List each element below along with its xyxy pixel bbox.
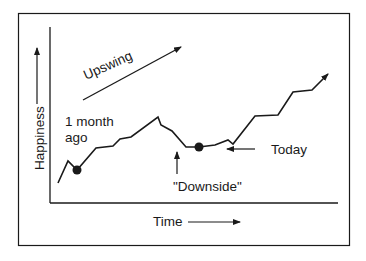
one-month-ago-label-line2: ago: [65, 130, 88, 145]
downside-label: "Downside": [173, 179, 242, 194]
y-axis-label: Happiness: [32, 106, 47, 170]
upswing-label: Upswing: [81, 48, 134, 83]
happiness-diagram: Happiness Time Upswing 1 month ago "Down…: [0, 0, 366, 261]
one-month-ago-label-line1: 1 month: [65, 114, 114, 129]
one-month-ago-marker: [73, 166, 82, 175]
today-label: Today: [271, 142, 307, 157]
x-axis-label: Time: [153, 214, 183, 229]
today-marker: [195, 143, 204, 152]
